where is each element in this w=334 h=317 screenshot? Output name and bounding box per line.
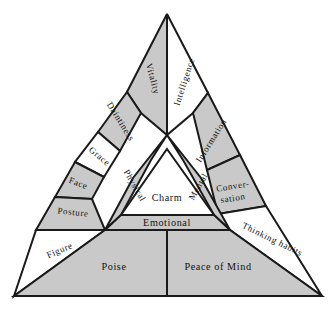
label-peace-of-mind: Peace of Mind — [184, 261, 251, 272]
diagram-canvas: Vitality Daintiness Grace Face Posture F… — [0, 0, 334, 317]
label-emotional: Emotional — [143, 217, 191, 228]
label-charm: Charm — [152, 192, 183, 203]
label-poise: Poise — [101, 261, 126, 272]
charm-triangle-diagram: Vitality Daintiness Grace Face Posture F… — [0, 0, 334, 317]
